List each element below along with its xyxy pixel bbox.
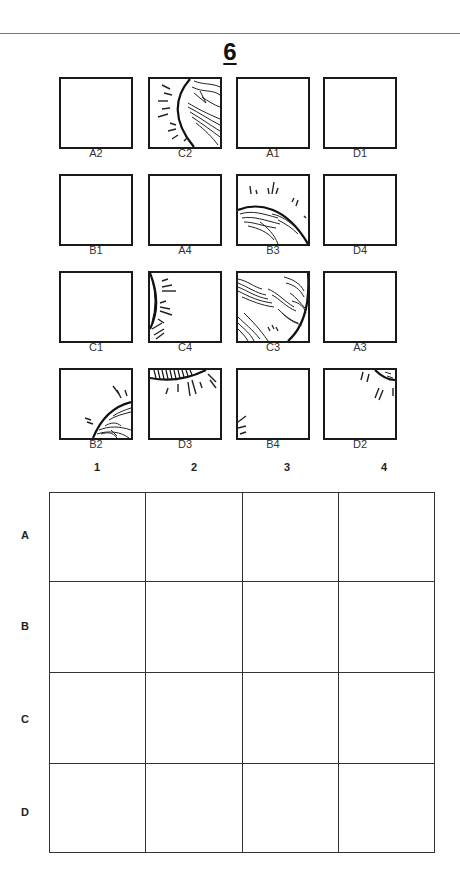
tile-label: C3 [236, 341, 310, 353]
row-header: B [17, 620, 33, 632]
tile-frame [59, 271, 133, 343]
puzzle-tile[interactable]: C3 [236, 271, 309, 342]
column-header: 2 [184, 461, 204, 473]
tile-label: A3 [323, 341, 397, 353]
row-header: C [17, 713, 33, 725]
puzzle-tile[interactable]: D1 [323, 77, 396, 148]
tile-label: D3 [148, 438, 222, 450]
tile-frame [59, 174, 133, 246]
grid-cell-C4[interactable] [339, 673, 434, 763]
tile-frame [323, 368, 397, 440]
puzzle-tile[interactable]: B1 [59, 174, 132, 245]
puzzle-tile[interactable]: D4 [323, 174, 396, 245]
grid-cell-B4[interactable] [339, 582, 434, 672]
puzzle-tile[interactable]: B2 [59, 368, 132, 439]
tile-label: B1 [59, 244, 133, 256]
grid-cell-D3[interactable] [243, 764, 338, 852]
tile-label: C1 [59, 341, 133, 353]
tile-label: C4 [148, 341, 222, 353]
tile-frame [236, 77, 310, 149]
puzzle-tile[interactable]: C1 [59, 271, 132, 342]
tile-label: D4 [323, 244, 397, 256]
grid-cell-C3[interactable] [243, 673, 338, 763]
tile-frame [148, 271, 222, 343]
answer-grid [49, 492, 435, 853]
tile-label: B3 [236, 244, 310, 256]
tile-label: D1 [323, 147, 397, 159]
tile-frame [236, 271, 310, 343]
row-header: A [17, 529, 33, 541]
puzzle-tile[interactable]: B4 [236, 368, 309, 439]
row-header: D [17, 806, 33, 818]
grid-cell-A1[interactable] [50, 493, 145, 581]
sketch-fragment-icon [238, 273, 308, 341]
grid-cell-D1[interactable] [50, 764, 145, 852]
page-number: 6 [0, 40, 460, 64]
grid-cell-A3[interactable] [243, 493, 338, 581]
sketch-fragment-icon [150, 79, 220, 147]
tile-label: D2 [323, 438, 397, 450]
top-divider [0, 33, 460, 34]
sketch-fragment-icon [238, 176, 308, 244]
puzzle-tile[interactable]: D2 [323, 368, 396, 439]
tile-frame [148, 368, 222, 440]
grid-cell-C1[interactable] [50, 673, 145, 763]
grid-cell-D4[interactable] [339, 764, 434, 852]
column-header: 1 [87, 461, 107, 473]
tile-frame [323, 271, 397, 343]
puzzle-tile[interactable]: A4 [148, 174, 221, 245]
tile-label: B4 [236, 438, 310, 450]
tile-frame [59, 77, 133, 149]
puzzle-tile[interactable]: A2 [59, 77, 132, 148]
grid-cell-D2[interactable] [146, 764, 242, 852]
grid-cell-B2[interactable] [146, 582, 242, 672]
grid-cell-B1[interactable] [50, 582, 145, 672]
tile-label: A4 [148, 244, 222, 256]
tile-frame [236, 174, 310, 246]
column-header: 4 [374, 461, 394, 473]
puzzle-tile[interactable]: A1 [236, 77, 309, 148]
tile-frame [323, 174, 397, 246]
tile-frame [323, 77, 397, 149]
tile-label: B2 [59, 438, 133, 450]
tile-frame [148, 77, 222, 149]
tile-frame [148, 174, 222, 246]
sketch-fragment-icon [325, 370, 395, 438]
tile-frame [236, 368, 310, 440]
puzzle-tile[interactable]: B3 [236, 174, 309, 245]
sketch-fragment-icon [150, 370, 220, 438]
sketch-fragment-icon [61, 370, 131, 438]
grid-cell-A4[interactable] [339, 493, 434, 581]
sketch-fragment-icon [238, 370, 308, 438]
grid-cell-C2[interactable] [146, 673, 242, 763]
tile-label: C2 [148, 147, 222, 159]
column-header: 3 [277, 461, 297, 473]
puzzle-tile[interactable]: C4 [148, 271, 221, 342]
grid-cell-B3[interactable] [243, 582, 338, 672]
puzzle-tile[interactable]: C2 [148, 77, 221, 148]
tile-label: A1 [236, 147, 310, 159]
grid-cell-A2[interactable] [146, 493, 242, 581]
puzzle-tile[interactable]: A3 [323, 271, 396, 342]
puzzle-tile[interactable]: D3 [148, 368, 221, 439]
tile-frame [59, 368, 133, 440]
sketch-fragment-icon [150, 273, 220, 341]
tile-label: A2 [59, 147, 133, 159]
